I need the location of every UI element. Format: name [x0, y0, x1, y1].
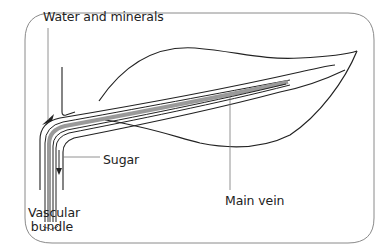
- vascular-label-line1: Vascular: [28, 206, 76, 220]
- vascular-label-line2: bundle: [28, 220, 76, 234]
- main-vein-label: Main vein: [225, 194, 284, 208]
- water-minerals-label: Water and minerals: [43, 10, 164, 24]
- sugar-label: Sugar: [103, 153, 139, 167]
- stem-outline: [62, 67, 75, 115]
- sugar-down-arrow: [56, 168, 62, 175]
- vascular-bundle-label: Vascular bundle: [28, 206, 76, 234]
